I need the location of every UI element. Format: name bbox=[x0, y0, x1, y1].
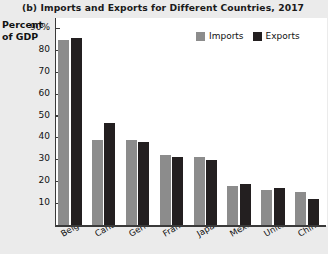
y-axis-tick-label: 70 bbox=[39, 66, 50, 76]
bar-imports bbox=[194, 157, 205, 225]
bar-imports bbox=[227, 186, 238, 225]
legend-label: Imports bbox=[209, 31, 244, 41]
bar-exports bbox=[172, 157, 183, 225]
bar-exports bbox=[71, 38, 82, 225]
x-axis-label: France bbox=[161, 227, 191, 239]
bar-group bbox=[125, 18, 159, 225]
bar-exports bbox=[274, 188, 285, 225]
y-axis-tick-label: 20 bbox=[39, 175, 50, 185]
y-axis-tick-label: 90% bbox=[30, 22, 50, 32]
y-axis-tick-label: 30 bbox=[39, 153, 50, 163]
x-axis-label: Belgium bbox=[59, 227, 95, 239]
legend-swatch-exports bbox=[253, 32, 262, 41]
legend-item-exports: Exports bbox=[253, 31, 300, 41]
bars-layer bbox=[55, 18, 326, 225]
x-axis-label: Mexico bbox=[228, 227, 259, 239]
x-axis-label: Germany bbox=[127, 227, 166, 239]
y-axis-tick-label: 50 bbox=[39, 110, 50, 120]
bar-group bbox=[260, 18, 294, 225]
x-axis-label: China bbox=[296, 227, 322, 239]
bar-imports bbox=[58, 40, 69, 225]
bar-exports bbox=[138, 142, 149, 225]
y-axis-tick-label: 60 bbox=[39, 88, 50, 98]
bar-group bbox=[193, 18, 227, 225]
x-axis-labels: BelgiumCanadaGermanyFranceJapanMexicoUni… bbox=[55, 227, 326, 254]
bar-imports bbox=[295, 192, 306, 225]
legend-item-imports: Imports bbox=[196, 31, 244, 41]
bar-group bbox=[294, 18, 328, 225]
bar-exports bbox=[240, 184, 251, 225]
y-axis-tick-label: 10 bbox=[39, 197, 50, 207]
bar-imports bbox=[261, 190, 272, 225]
bar-exports bbox=[308, 199, 319, 225]
bar-group bbox=[159, 18, 193, 225]
x-axis-label: Canada bbox=[93, 227, 126, 239]
legend: ImportsExports bbox=[196, 30, 300, 42]
y-axis-tick-label: 80 bbox=[39, 44, 50, 54]
bar-imports bbox=[126, 140, 137, 225]
bar-group bbox=[226, 18, 260, 225]
x-axis-label: Japan bbox=[195, 227, 221, 239]
bar-group bbox=[57, 18, 91, 225]
legend-swatch-imports bbox=[196, 32, 205, 41]
bar-exports bbox=[104, 123, 115, 225]
chart-title: (b) Imports and Exports for Different Co… bbox=[0, 2, 326, 13]
legend-label: Exports bbox=[266, 31, 300, 41]
y-axis-tick-label: 40 bbox=[39, 131, 50, 141]
bar-imports bbox=[92, 140, 103, 225]
bar-group bbox=[91, 18, 125, 225]
bar-imports bbox=[160, 155, 171, 225]
bar-exports bbox=[206, 160, 217, 225]
